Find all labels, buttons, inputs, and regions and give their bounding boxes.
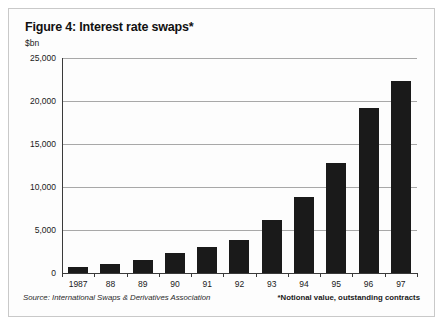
figure-title: Figure 4: Interest rate swaps* — [25, 20, 193, 34]
x-axis-tick — [417, 273, 418, 277]
y-axis-tick-label: 25,000 — [30, 53, 56, 63]
bar — [391, 81, 411, 273]
bar — [100, 264, 120, 273]
bar — [229, 240, 249, 273]
gridline — [62, 58, 417, 59]
y-axis-unit-label: $bn — [25, 38, 39, 48]
x-axis-tick-label: 97 — [396, 279, 405, 289]
y-axis-tick-label: 5,000 — [35, 225, 56, 235]
bar — [197, 247, 217, 273]
y-axis-line — [62, 58, 63, 273]
x-axis-tick-label: 93 — [267, 279, 276, 289]
x-axis-tick-label: 96 — [364, 279, 373, 289]
bar — [326, 163, 346, 273]
x-axis-tick-label: 92 — [235, 279, 244, 289]
footnote-caption: *Notional value, outstanding contracts — [277, 293, 420, 302]
bar — [262, 220, 282, 273]
x-axis-tick-label: 91 — [202, 279, 211, 289]
source-caption: Source: International Swaps & Derivative… — [23, 293, 210, 302]
x-axis-tick-label: 89 — [138, 279, 147, 289]
y-axis-tick-label: 20,000 — [30, 96, 56, 106]
y-axis-tick-label: 0 — [51, 268, 56, 278]
x-axis-line — [62, 273, 417, 274]
x-axis-tick-label: 88 — [106, 279, 115, 289]
bar — [165, 253, 185, 273]
bar — [294, 197, 314, 273]
bar — [359, 108, 379, 273]
plot-area: 05,00010,00015,00020,00025,000 198788899… — [62, 58, 417, 273]
x-axis-tick-label: 95 — [332, 279, 341, 289]
figure-container: Figure 4: Interest rate swaps* $bn 05,00… — [0, 0, 443, 325]
bar — [133, 260, 153, 273]
y-axis-tick-label: 15,000 — [30, 139, 56, 149]
x-axis-tick-label: 90 — [170, 279, 179, 289]
gridline — [62, 101, 417, 102]
x-axis-tick-label: 94 — [299, 279, 308, 289]
y-axis-tick-label: 10,000 — [30, 182, 56, 192]
x-axis-tick-label: 1987 — [69, 279, 88, 289]
